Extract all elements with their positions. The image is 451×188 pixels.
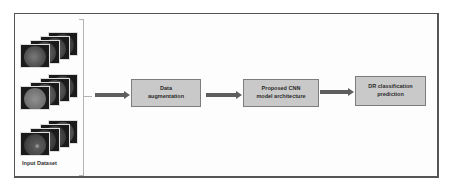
input-dataset-label: Input Dataset: [22, 160, 57, 166]
step1-label-line2: augmentation: [148, 93, 184, 101]
dr-classification-box: DR classification prediction: [355, 76, 426, 106]
step3-label-line1: DR classification: [368, 83, 412, 91]
arrow-augmentation-to-cnn: [206, 92, 242, 98]
fundus-image-stack-1: [20, 30, 78, 70]
step2-label-line2: model architecture: [256, 93, 305, 101]
step3-label-line2: prediction: [368, 91, 412, 99]
arrow-input-to-augmentation: [95, 92, 130, 98]
bracket-tick: [84, 96, 92, 97]
fundus-image-stack-3: [20, 118, 78, 158]
fundus-image: [20, 86, 50, 110]
fundus-image: [20, 132, 50, 156]
step2-label-line1: Proposed CNN: [256, 85, 305, 93]
fundus-image-stack-2: [20, 72, 78, 112]
cnn-model-box: Proposed CNN model architecture: [243, 79, 319, 107]
data-augmentation-box: Data augmentation: [131, 79, 201, 107]
input-bracket: [79, 19, 84, 176]
fundus-image: [20, 44, 50, 68]
arrow-cnn-to-prediction: [320, 89, 354, 95]
step1-label-line1: Data: [148, 85, 184, 93]
